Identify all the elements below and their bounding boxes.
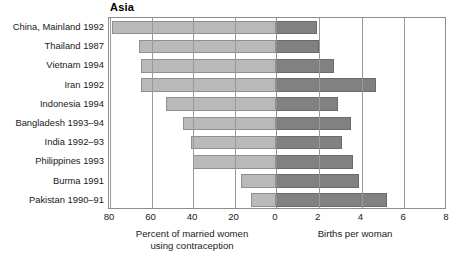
- category-label: India 1992–93: [0, 132, 104, 151]
- chart-row: [109, 56, 445, 75]
- bar-births: [276, 174, 359, 188]
- bar-contraception: [251, 193, 276, 207]
- chart-row: [109, 18, 445, 37]
- category-label-axis: China, Mainland 1992Thailand 1987Vietnam…: [0, 17, 104, 209]
- tick-label-left-20: 20: [228, 211, 239, 222]
- chart-row: [109, 37, 445, 56]
- gridline-right-2: [319, 18, 320, 208]
- category-label: Pakistan 1990–91: [0, 190, 104, 209]
- plot-area: [108, 17, 446, 209]
- tick-label-left-0: 0: [272, 211, 277, 222]
- gridline-left-20: [235, 18, 236, 208]
- bar-rows: [109, 18, 445, 208]
- bar-births: [276, 21, 317, 35]
- tick-label-right-2: 2: [315, 211, 320, 222]
- category-label: China, Mainland 1992: [0, 17, 104, 36]
- category-label: Iran 1992: [0, 75, 104, 94]
- tick-label-right-4: 4: [358, 211, 363, 222]
- gridline-left-40: [193, 18, 194, 208]
- category-label: Thailand 1987: [0, 36, 104, 55]
- gridline-right-6: [404, 18, 405, 208]
- chart-row: [109, 114, 445, 133]
- chart-title: Asia: [110, 1, 134, 13]
- bar-contraception: [191, 136, 276, 150]
- bar-births: [276, 155, 353, 169]
- chart-row: [109, 152, 445, 171]
- left-axis-title-line1: Percent of married women: [136, 228, 249, 240]
- bar-births: [276, 59, 334, 73]
- tick-label-right-8: 8: [443, 211, 448, 222]
- tick-label-left-40: 40: [187, 211, 198, 222]
- bar-contraception: [139, 40, 276, 54]
- zero-axis-line: [276, 18, 277, 208]
- bar-births: [276, 97, 338, 111]
- bar-contraception: [141, 78, 276, 92]
- category-label: Bangladesh 1993–94: [0, 113, 104, 132]
- chart-row: [109, 76, 445, 95]
- bar-contraception: [166, 97, 276, 111]
- tick-label-left-80: 80: [104, 211, 115, 222]
- chart-row: [109, 95, 445, 114]
- chart-row: [109, 191, 445, 210]
- bar-births: [276, 193, 387, 207]
- left-axis-title-line2: using contraception: [136, 240, 249, 252]
- category-label: Philippines 1993: [0, 151, 104, 170]
- left-axis-title: Percent of married womenusing contracept…: [136, 228, 249, 251]
- gridline-left-60: [152, 18, 153, 208]
- category-label: Burma 1991: [0, 171, 104, 190]
- chart-row: [109, 133, 445, 152]
- chart-row: [109, 172, 445, 191]
- bar-births: [276, 117, 351, 131]
- bar-contraception: [241, 174, 276, 188]
- gridline-right-4: [362, 18, 363, 208]
- right-axis-title: Births per woman: [318, 228, 393, 240]
- category-label: Vietnam 1994: [0, 55, 104, 74]
- bar-contraception: [141, 59, 276, 73]
- chart-container: Asia China, Mainland 1992Thailand 1987Vi…: [0, 0, 450, 253]
- category-label: Indonesia 1994: [0, 94, 104, 113]
- tick-label-right-6: 6: [401, 211, 406, 222]
- bar-births: [276, 136, 342, 150]
- bar-births: [276, 40, 319, 54]
- bar-contraception: [112, 21, 276, 35]
- tick-label-left-60: 60: [145, 211, 156, 222]
- gridline-left-80: [110, 18, 111, 208]
- bar-contraception: [183, 117, 276, 131]
